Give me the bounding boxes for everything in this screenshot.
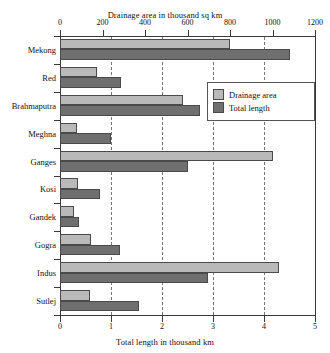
tick-mark-category	[54, 64, 60, 65]
bar-total-length-gogra	[60, 245, 120, 256]
tick-label-bottom: 2	[160, 322, 164, 331]
tick-label-top: 1200	[307, 18, 323, 27]
tick-mark-top	[60, 30, 61, 36]
category-label-kosi: Kosi	[0, 184, 56, 194]
bar-drainage-area-indus	[60, 262, 279, 273]
category-label-mekong: Mekong	[0, 45, 56, 55]
tick-mark-top	[103, 30, 104, 36]
tick-mark-category	[54, 259, 60, 260]
tick-mark-top	[188, 30, 189, 36]
category-label-red: Red	[0, 73, 56, 83]
tick-label-top: 0	[58, 18, 62, 27]
bar-total-length-mekong	[60, 49, 290, 60]
tick-label-bottom: 4	[262, 322, 266, 331]
category-label-brahmaputra: Brahmaputra	[0, 101, 56, 111]
bar-total-length-sutlej	[60, 301, 139, 312]
plot-frame-bottom	[60, 315, 316, 316]
tick-mark-top	[315, 30, 316, 36]
bottom-axis-title: Total length in thousand km	[0, 337, 330, 347]
bar-drainage-area-brahmaputra	[60, 95, 183, 106]
tick-label-top: 200	[97, 18, 109, 27]
tick-label-top: 1000	[265, 18, 281, 27]
bar-drainage-area-mekong	[60, 39, 230, 50]
tick-mark-category	[54, 120, 60, 121]
bar-total-length-brahmaputra	[60, 105, 200, 116]
tick-mark-category	[54, 203, 60, 204]
bar-drainage-area-kosi	[60, 178, 78, 189]
legend-label-total-length: Total length	[229, 103, 270, 113]
bar-drainage-area-sutlej	[60, 290, 90, 301]
tick-mark-category	[54, 148, 60, 149]
bar-total-length-ganges	[60, 161, 188, 172]
tick-mark-top	[230, 30, 231, 36]
legend-item-drainage-area: Drainage area	[213, 89, 309, 100]
legend-swatch-total-length	[213, 102, 224, 113]
legend-label-drainage-area: Drainage area	[229, 90, 276, 100]
category-label-ganges: Ganges	[0, 157, 56, 167]
tick-label-bottom: 3	[211, 322, 215, 331]
bar-drainage-area-ganges	[60, 151, 273, 162]
bar-drainage-area-red	[60, 67, 97, 78]
tick-mark-top	[145, 30, 146, 36]
plot-frame-right	[315, 36, 316, 316]
category-label-indus: Indus	[0, 268, 56, 278]
tick-label-bottom: 5	[313, 322, 317, 331]
tick-mark-category	[54, 92, 60, 93]
tick-label-bottom: 0	[58, 322, 62, 331]
tick-mark-top	[273, 30, 274, 36]
plot-frame-top	[60, 36, 316, 37]
bar-total-length-meghna	[60, 133, 111, 144]
category-label-gogra: Gogra	[0, 240, 56, 250]
category-label-sutlej: Sutlej	[0, 296, 56, 306]
bar-total-length-red	[60, 77, 121, 88]
bar-total-length-gandek	[60, 217, 79, 228]
tick-mark-category	[54, 315, 60, 316]
bar-chart: Drainage area in thousand sq km 02004006…	[0, 0, 330, 353]
tick-mark-category	[54, 287, 60, 288]
tick-label-top: 600	[182, 18, 194, 27]
bar-total-length-kosi	[60, 189, 100, 200]
category-label-meghna: Meghna	[0, 129, 56, 139]
tick-label-top: 800	[224, 18, 236, 27]
bar-drainage-area-gogra	[60, 234, 91, 245]
chart-legend: Drainage area Total length	[207, 82, 315, 121]
top-axis-title: Drainage area in thousand sq km	[0, 10, 330, 20]
bar-total-length-indus	[60, 273, 208, 284]
tick-mark-category	[54, 231, 60, 232]
tick-label-bottom: 1	[109, 322, 113, 331]
legend-swatch-drainage-area	[213, 89, 224, 100]
gridline	[264, 37, 265, 315]
legend-item-total-length: Total length	[213, 102, 309, 113]
tick-label-top: 400	[139, 18, 151, 27]
gridline	[213, 37, 214, 315]
tick-mark-category	[54, 36, 60, 37]
bar-drainage-area-meghna	[60, 123, 77, 134]
tick-mark-category	[54, 176, 60, 177]
bar-drainage-area-gandek	[60, 206, 74, 217]
category-label-gandek: Gandek	[0, 212, 56, 222]
